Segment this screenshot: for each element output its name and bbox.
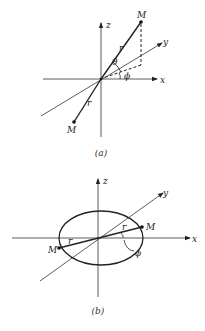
mass-point-lower-a xyxy=(72,120,76,124)
caption-b: (b) xyxy=(92,306,105,316)
x-label-b: x xyxy=(192,234,197,244)
theta-label: θ xyxy=(112,57,118,67)
radius-label-left-b: r xyxy=(68,236,73,246)
caption-a: (a) xyxy=(95,148,108,158)
z-label-a: z xyxy=(105,20,111,30)
figure-a: z y x M M r r θ ϕ (a) xyxy=(41,10,169,158)
mass-point-left-b xyxy=(57,246,61,250)
diatomic-molecule-diagrams: z y x M M r r θ ϕ (a) z y x M M r r ϕ xyxy=(0,0,205,331)
y-label-a: y xyxy=(162,37,169,47)
phi-label-b: ϕ xyxy=(135,248,141,258)
mass-label-left-b: M xyxy=(47,245,58,255)
mass-point-right-b xyxy=(140,225,144,229)
mass-label-right-b: M xyxy=(145,222,156,232)
mass-label-upper-a: M xyxy=(136,10,147,20)
z-label-b: z xyxy=(102,176,108,186)
x-label-a: x xyxy=(160,75,165,85)
radius-label-lower-a: r xyxy=(87,98,92,108)
radius-label-upper-a: r xyxy=(119,43,124,53)
mass-label-lower-a: M xyxy=(66,125,77,135)
origin-point-a xyxy=(100,78,103,81)
radius-label-right-b: r xyxy=(122,222,127,232)
phi-label-a: ϕ xyxy=(124,71,130,81)
phi-arc xyxy=(119,73,120,79)
y-label-b: y xyxy=(162,188,169,198)
phi-leader-b xyxy=(124,240,134,251)
phi-arc-b xyxy=(121,233,123,238)
mass-point-upper-a xyxy=(139,20,143,24)
figure-b: z y x M M r r ϕ (b) xyxy=(12,176,197,316)
